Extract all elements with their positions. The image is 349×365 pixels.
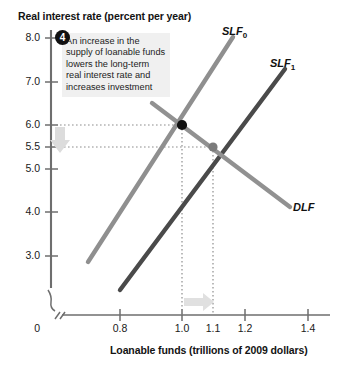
x-tick-label-1-1: 1.1 (198, 322, 228, 334)
figure-container: Real interest rate (percent per year) Lo… (0, 0, 349, 365)
curve-label-slf0-base: SLF (222, 25, 243, 37)
interest-rate-fall-arrow-icon (50, 127, 70, 153)
curve-label-slf0-sub: 0 (243, 31, 247, 40)
y-tick-label-5: 5.0 (8, 162, 40, 174)
y-tick-label-0: 0 (8, 322, 40, 334)
callout-text-box: An increase in the supply of loanable fu… (62, 33, 170, 97)
y-tick-label-8: 8.0 (8, 31, 40, 43)
y-axis-title: Real interest rate (percent per year) (18, 10, 191, 22)
curve-label-slf0: SLF0 (222, 25, 247, 40)
y-tick-label-6: 6.0 (8, 118, 40, 130)
loanable-funds-chart (0, 0, 349, 365)
x-tick-label-0-8: 0.8 (105, 322, 135, 334)
y-tick-label-5-5: 5.5 (8, 140, 40, 152)
x-tick-label-1-0: 1.0 (167, 322, 197, 334)
quantity-increase-arrow-icon (184, 293, 214, 311)
y-tick-label-3: 3.0 (8, 249, 40, 261)
curve-label-slf1: SLF1 (270, 57, 295, 72)
callout-number-badge: 4 (55, 30, 70, 45)
new-equilibrium-point (208, 142, 217, 151)
curve-slf1 (120, 69, 285, 290)
guide-lines (52, 125, 213, 315)
curve-label-dlf-base: DLF (293, 201, 314, 213)
curve-label-slf1-sub: 1 (291, 63, 295, 72)
x-axis-title: Loanable funds (trillions of 2009 dollar… (110, 344, 308, 356)
initial-equilibrium-point (177, 120, 187, 130)
x-tick-label-1-4: 1.4 (293, 322, 323, 334)
y-tick-label-7: 7.0 (8, 75, 40, 87)
y-tick-label-4: 4.0 (8, 205, 40, 217)
curve-label-slf1-base: SLF (270, 57, 291, 69)
curve-label-dlf: DLF (293, 201, 314, 213)
x-tick-label-1-2: 1.2 (230, 322, 260, 334)
curve-dlf (152, 103, 290, 207)
